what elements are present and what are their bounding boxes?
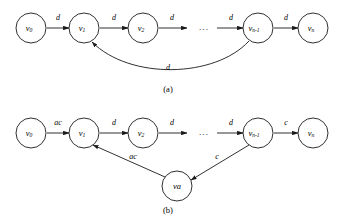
edge-label-b-v0-v1: ac [54, 118, 62, 127]
graph-figure-svg: v0 v1 v2 vn-1 vn d d d d [0, 0, 342, 222]
edge-label-b-v2-dots: d [170, 118, 175, 127]
node-label-b-va: va [173, 181, 181, 191]
figure-container: v0 v1 v2 vn-1 vn d d d d [0, 0, 342, 222]
edge-label-b-vn-1-va: c [215, 152, 219, 161]
caption-panel-b: (b) [163, 205, 173, 215]
edge-a-back-vn-1-v1 [92, 41, 249, 70]
edge-label-b-va-v1: ac [129, 152, 137, 161]
edge-label-b-vn-1-vn: c [284, 118, 288, 127]
edge-label-a-v2-dots: d [170, 13, 175, 22]
edge-label-a-v1-v2: d [112, 13, 117, 22]
edge-label-a-v0-v1: d [56, 13, 61, 22]
edge-b-va-v1 [93, 145, 165, 177]
edge-label-b-dots-vn-1: d [229, 118, 234, 127]
ellipsis-panel-a: ... [199, 22, 209, 32]
panel-a: v0 v1 v2 vn-1 vn d d d d [16, 13, 328, 94]
edge-label-a-back: d [166, 63, 171, 72]
panel-b: v0 v1 v2 vn-1 vn va ac d [16, 118, 328, 215]
edge-label-a-vn-1-vn: d [284, 13, 289, 22]
edge-b-vn-1-va [191, 145, 249, 180]
caption-panel-a: (a) [163, 84, 173, 94]
edge-label-b-v1-v2: d [112, 118, 117, 127]
ellipsis-panel-b: ... [199, 127, 209, 137]
edge-label-a-dots-vn-1: d [229, 13, 234, 22]
